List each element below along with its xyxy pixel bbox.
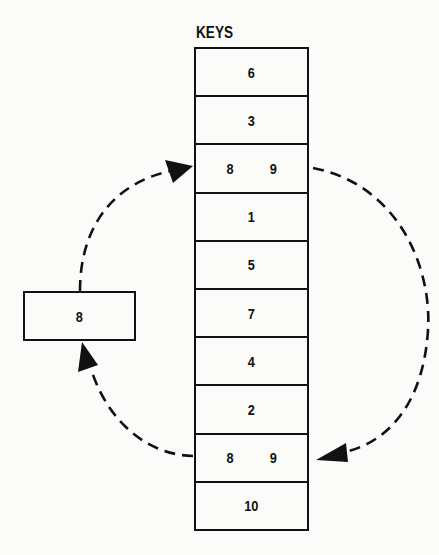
arrowhead-icon: [316, 443, 348, 462]
swap-arrows: [0, 0, 439, 555]
arrowhead-icon: [78, 342, 98, 372]
arrowhead-icon: [165, 160, 193, 183]
arrow-temp-to-cell2: [80, 170, 175, 291]
arrow-cell2-to-cell8: [313, 168, 428, 452]
arrow-cell8-to-temp: [92, 372, 193, 456]
